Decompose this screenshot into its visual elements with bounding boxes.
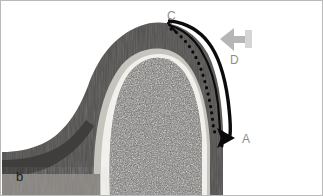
micrograph-image: C D A b — [2, 2, 323, 196]
annotation-label-c: C — [167, 10, 176, 22]
annotation-label-a: A — [242, 133, 250, 145]
panel-letter-label: b — [16, 170, 23, 183]
annotation-label-d: D — [230, 54, 239, 66]
figure-panel-b: C D A b — [0, 0, 323, 196]
tissue-specimen-graphic — [2, 2, 323, 196]
